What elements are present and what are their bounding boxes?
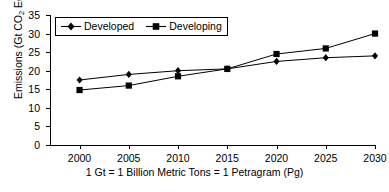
x-tick-label-2025: 2025 bbox=[314, 152, 337, 164]
legend-item-developing: Developing bbox=[146, 20, 222, 32]
data-point-developing-2020 bbox=[273, 51, 279, 57]
legend-label-developing: Developing bbox=[169, 20, 222, 32]
data-point-developed-2030 bbox=[372, 52, 378, 59]
x-tick-2015 bbox=[227, 145, 228, 149]
y-tick-label-5: 5 bbox=[34, 120, 40, 132]
data-point-developing-2000 bbox=[76, 87, 82, 93]
data-point-developing-2015 bbox=[224, 66, 230, 72]
data-point-developing-2030 bbox=[372, 30, 378, 36]
y-axis-title-suffix: Equivalent) bbox=[12, 0, 24, 11]
legend-label-developed: Developed bbox=[84, 20, 134, 32]
x-tick-label-2005: 2005 bbox=[117, 152, 140, 164]
x-tick-2000 bbox=[80, 145, 81, 149]
data-point-developing-2005 bbox=[126, 82, 132, 88]
y-tick-label-35: 35 bbox=[28, 9, 40, 21]
y-axis-title-prefix: Emissions (Gt CO bbox=[12, 15, 24, 99]
data-point-developing-2010 bbox=[175, 73, 181, 79]
emissions-line-chart: Emissions (Gt CO2 Equivalent) 0510152025… bbox=[0, 0, 389, 192]
legend-item-developed: Developed bbox=[61, 20, 134, 32]
legend-marker-diamond-icon bbox=[61, 21, 81, 32]
y-tick-label-15: 15 bbox=[28, 83, 40, 95]
y-tick-label-10: 10 bbox=[28, 102, 40, 114]
x-tick-label-2020: 2020 bbox=[265, 152, 288, 164]
x-tick-label-2030: 2030 bbox=[363, 152, 386, 164]
y-axis-title-subscript: 2 bbox=[17, 11, 26, 15]
x-tick-2005 bbox=[129, 145, 130, 149]
x-tick-2020 bbox=[277, 145, 278, 149]
y-tick-label-25: 25 bbox=[28, 46, 40, 58]
data-point-developed-2020 bbox=[273, 58, 279, 65]
x-tick-label-2000: 2000 bbox=[68, 152, 91, 164]
x-tick-label-2015: 2015 bbox=[216, 152, 239, 164]
y-tick-label-20: 20 bbox=[28, 65, 40, 77]
x-tick-2030 bbox=[375, 145, 376, 149]
data-point-developed-2025 bbox=[323, 54, 329, 61]
data-point-developing-2025 bbox=[323, 45, 329, 51]
plot-area: 05101520253035 2000200520102015202020252… bbox=[50, 15, 375, 145]
data-point-developed-2000 bbox=[76, 76, 82, 83]
data-point-developed-2005 bbox=[126, 71, 132, 78]
x-axis-caption: 1 Gt = 1 Billion Metric Tons = 1 Petragr… bbox=[0, 166, 389, 178]
y-tick-label-0: 0 bbox=[34, 139, 40, 151]
legend-marker-square-icon bbox=[146, 21, 166, 32]
x-tick-label-2010: 2010 bbox=[166, 152, 189, 164]
x-tick-2010 bbox=[178, 145, 179, 149]
series-line-developing bbox=[80, 34, 375, 90]
y-axis-title: Emissions (Gt CO2 Equivalent) bbox=[11, 0, 25, 99]
y-tick-label-30: 30 bbox=[28, 28, 40, 40]
x-tick-2025 bbox=[326, 145, 327, 149]
chart-legend: Developed Developing bbox=[55, 17, 228, 36]
y-tick-0: 0 bbox=[46, 145, 50, 146]
